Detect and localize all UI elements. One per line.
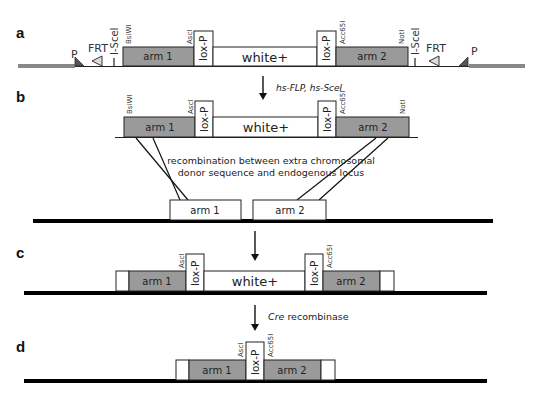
promoter-left-label: P <box>71 48 78 61</box>
flank-right-box-d <box>321 360 335 380</box>
site-noti: NotI <box>398 30 406 44</box>
isce-left-label: I-SceI <box>109 27 120 55</box>
isce-right-label: I-SceI <box>410 27 421 55</box>
locus-arm1-label: arm 1 <box>190 205 219 216</box>
flank-left-box-d <box>176 360 189 380</box>
panel-d: d arm 1 AscI lox-P Acc65I arm 2 <box>16 334 487 383</box>
site-acc65i-b: Acc65I <box>339 91 347 114</box>
arm1-label-b: arm 1 <box>145 122 174 133</box>
frt-right-icon <box>429 56 439 66</box>
step-cd-label: Cre recombinase <box>268 311 349 322</box>
frt-left-icon <box>92 56 102 66</box>
white-marker-label-c: white+ <box>232 274 278 289</box>
arm1-label: arm 1 <box>143 51 172 62</box>
gene-targeting-diagram: a P FRT I-SceI arm 1 BsiWI AscI lox-P wh… <box>0 0 540 397</box>
arrow-down-icon <box>251 324 259 331</box>
panel-c: c arm 1 AscI lox-P white+ lox-P Acc65I a… <box>16 244 487 295</box>
frt-right-label: FRT <box>426 42 446 55</box>
arm2-label-b: arm 2 <box>358 122 387 133</box>
chromosome-c <box>24 291 487 295</box>
site-bsiwi-b: BsiWI <box>126 95 134 114</box>
site-bsiwi: BsiWI <box>125 25 133 44</box>
promoter-right-label: P <box>471 45 478 58</box>
step-arrow-cd: Cre recombinase <box>251 305 349 331</box>
arrow-down-icon <box>259 93 267 100</box>
loxp-left-label: lox-P <box>197 36 209 61</box>
site-asci-d: AscI <box>237 343 245 357</box>
site-asci: AscI <box>186 30 194 44</box>
site-noti-b: NotI <box>399 100 407 114</box>
recombination-note-line2: donor sequence and endogenous locus <box>178 167 364 178</box>
promoter-right-icon <box>459 57 468 66</box>
panel-d-label: d <box>16 338 25 355</box>
loxp-right-label: lox-P <box>320 36 332 61</box>
panel-a: a P FRT I-SceI arm 1 BsiWI AscI lox-P wh… <box>16 21 525 68</box>
arm2-label-c: arm 2 <box>336 276 365 287</box>
panel-b: b arm 1 BsiWI AscI lox-P white+ lox-P ar… <box>16 88 493 223</box>
flank-left-box-c <box>116 271 129 291</box>
crossover-line-1b <box>153 138 180 200</box>
locus-arm2-label: arm 2 <box>275 205 304 216</box>
frt-left-label: FRT <box>88 42 108 55</box>
loxp-right-label-b: lox-P <box>321 107 333 132</box>
arm2-label-d: arm 2 <box>277 365 306 376</box>
panel-a-label: a <box>16 24 25 41</box>
arm1-label-c: arm 1 <box>142 276 171 287</box>
panel-c-label: c <box>16 244 24 261</box>
donor-flank-right <box>469 64 525 68</box>
donor-flank-left <box>18 64 75 68</box>
arm1-label-d: arm 1 <box>202 365 231 376</box>
panel-b-label: b <box>16 88 25 105</box>
site-acc65i: Acc65I <box>339 21 347 44</box>
flank-right-box-c <box>380 271 394 291</box>
step-ab-label: hs-FLP, hs-SceI <box>276 83 343 93</box>
loxp-left-label-b: lox-P <box>198 107 210 132</box>
step-arrow-bc <box>251 231 259 261</box>
loxp-left-label-c: lox-P <box>189 261 201 286</box>
loxp-label-d: lox-P <box>249 350 261 375</box>
site-asci-b: AscI <box>187 100 195 114</box>
arm2-label: arm 2 <box>357 51 386 62</box>
white-marker-label-b: white+ <box>243 120 289 135</box>
site-acc65i-c: Acc65I <box>326 245 334 268</box>
site-acc65i-d: Acc65I <box>267 334 275 357</box>
recombination-note-line1: recombination between extra chromosomal <box>167 155 375 166</box>
white-marker-label: white+ <box>242 50 288 65</box>
loxp-right-label-c: lox-P <box>308 261 320 286</box>
step-arrow-ab: hs-FLP, hs-SceI <box>259 76 343 100</box>
site-asci-c: AscI <box>178 254 186 268</box>
arrow-down-icon <box>251 254 259 261</box>
